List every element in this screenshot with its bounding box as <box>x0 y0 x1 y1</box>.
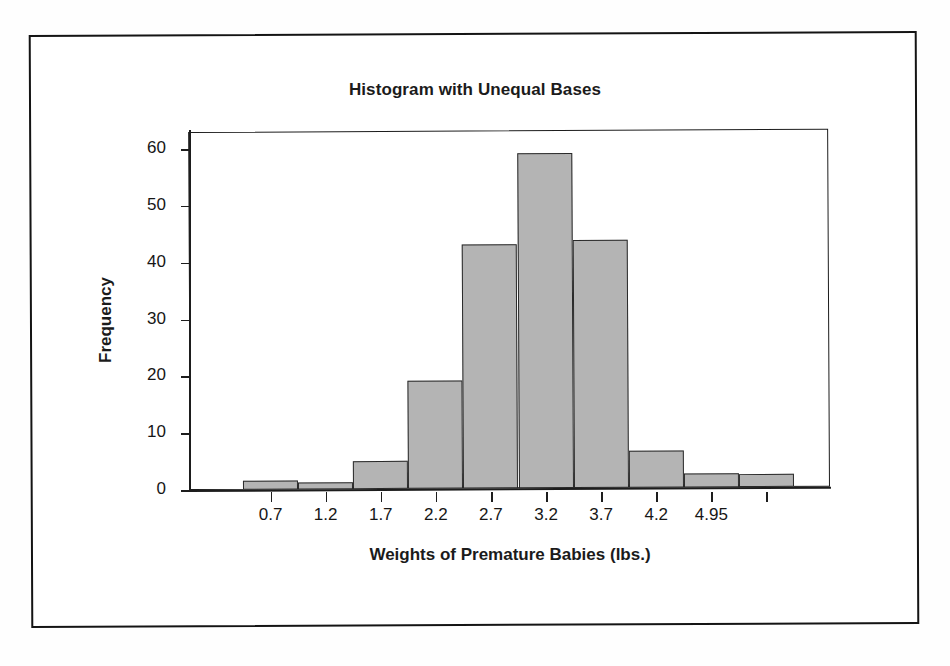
histogram-bar <box>517 153 574 489</box>
x-axis-tick <box>326 492 328 502</box>
histogram-chart: Histogram with Unequal Bases 01020304050… <box>0 0 950 666</box>
x-axis-tick <box>601 492 603 502</box>
histogram-bar <box>353 460 408 489</box>
y-axis-tick <box>181 490 190 492</box>
x-axis-tick <box>271 492 273 502</box>
y-axis-tick-label: 20 <box>0 365 178 385</box>
y-axis-line <box>189 130 191 492</box>
y-axis-title: Frequency <box>96 210 116 430</box>
x-axis-tick <box>546 492 548 502</box>
x-axis-title: Weights of Premature Babies (lbs.) <box>170 545 850 565</box>
y-axis-tick-label: 0 <box>0 479 178 499</box>
x-axis-tick <box>491 492 493 502</box>
histogram-bar <box>572 239 628 488</box>
histogram-bar <box>408 381 464 489</box>
x-axis-tick <box>656 492 658 502</box>
x-axis-tick <box>381 492 383 502</box>
histogram-bar <box>243 481 298 490</box>
y-axis-tick-label: 10 <box>0 422 178 442</box>
figure-page: Histogram with Unequal Bases 01020304050… <box>0 0 950 666</box>
x-axis-tick <box>436 492 438 502</box>
y-axis-tick <box>181 376 190 378</box>
y-axis-tick <box>181 320 190 322</box>
bars-layer <box>188 129 830 490</box>
y-axis-tick <box>181 433 190 435</box>
histogram-bar <box>462 244 518 489</box>
histogram-bar <box>628 450 683 487</box>
x-axis-tick <box>711 492 713 502</box>
y-axis-tick <box>181 149 190 151</box>
y-axis-tick <box>181 206 190 208</box>
histogram-bar <box>739 474 794 487</box>
y-axis-tick-label: 50 <box>0 195 178 215</box>
chart-title: Histogram with Unequal Bases <box>0 80 950 100</box>
x-axis-tick-label: 4.95 <box>676 505 746 525</box>
y-axis-tick <box>181 263 190 265</box>
y-axis-tick-label: 30 <box>0 309 178 329</box>
x-axis-tick <box>766 492 768 502</box>
histogram-bar <box>684 473 739 487</box>
y-axis-tick-label: 40 <box>0 252 178 272</box>
y-axis-tick-label: 60 <box>0 138 178 158</box>
